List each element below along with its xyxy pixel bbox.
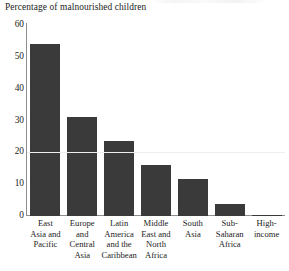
bar-1: [67, 117, 97, 215]
y-tick-label-60: 60: [2, 20, 24, 29]
bar-5: [215, 204, 245, 215]
scan-artifact: [150, 0, 270, 3]
y-tick-label-40: 40: [2, 84, 24, 93]
bar-3: [141, 165, 171, 216]
bar-6: [252, 215, 282, 216]
faint-horizontal-rule: [27, 152, 285, 153]
x-axis-category-labels: EastAsia andPacificEuropeandCentralAsiaL…: [27, 218, 285, 270]
bar-chart: Percentage of malnourished children 6050…: [0, 0, 289, 271]
plot-area: [27, 25, 285, 216]
y-tick-label-10: 10: [2, 179, 24, 188]
bar-0: [30, 44, 60, 215]
x-label-6: High-income: [245, 218, 288, 239]
y-tick-label-0: 0: [2, 211, 24, 220]
y-tick-label-30: 30: [2, 116, 24, 125]
y-tick-label-20: 20: [2, 147, 24, 156]
chart-title: Percentage of malnourished children: [5, 1, 146, 13]
y-tick-label-50: 50: [2, 52, 24, 61]
y-axis-tick-labels: 6050403020100: [0, 0, 24, 271]
bar-4: [178, 179, 208, 216]
